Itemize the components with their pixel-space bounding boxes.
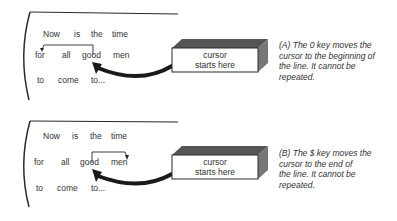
word: the [90,131,102,141]
box-label-line: cursor [176,50,254,60]
word: to... [91,75,105,85]
word: Now [43,131,60,141]
word-cursor: good [82,50,101,60]
word: is [74,29,80,39]
word: men [111,157,128,167]
caption-line: the line. It cannot be [279,169,397,180]
panel-b: Now is the time for all good men to come… [0,110,397,220]
word: all [62,50,71,60]
caption-b: (B) The $ key moves the cursor to the en… [279,148,397,190]
word: to [36,183,43,193]
caption-line: the line. It cannot be [279,61,397,72]
caption-line: cursor to the beginning of [279,51,397,62]
word: for [35,50,45,60]
word: men [113,50,130,60]
word: is [72,131,78,141]
caption-line: (B) The $ key moves the [279,148,397,159]
word: the [91,29,103,39]
word: for [34,157,44,167]
caption-line: (A) The 0 key moves the [279,40,397,51]
word: all [61,157,70,167]
word: to [37,75,44,85]
word: come [57,183,78,193]
word: time [112,29,128,39]
word: time [111,131,127,141]
panel-a: Now is the time for all good men to come… [0,0,397,110]
box-label-line: starts here [176,167,254,177]
caption-line: repeated. [279,180,397,191]
word: come [58,75,79,85]
cursor-box-label-a: cursor starts here [176,50,254,70]
word: Now [43,29,60,39]
box-label-line: cursor [176,157,254,167]
caption-a: (A) The 0 key moves the cursor to the be… [279,40,397,82]
caption-line: cursor to the end of [279,159,397,170]
word: to... [91,183,105,193]
caption-line: repeated. [279,72,397,83]
box-label-line: starts here [176,60,254,70]
word-cursor: good [80,157,99,167]
cursor-box-label-b: cursor starts here [176,157,254,177]
